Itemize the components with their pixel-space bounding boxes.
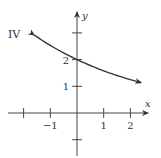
graph-label: IV (8, 28, 21, 41)
exponential-curve (34, 35, 141, 83)
y-tick-label: 1 (63, 81, 69, 92)
x-tick-label: 2 (127, 120, 133, 131)
y-axis-label: y (81, 10, 88, 21)
exponential-graph: −112 12 IV x y (0, 0, 161, 158)
x-ticks: −112 (24, 108, 134, 131)
x-axis-label: x (145, 98, 151, 109)
x-tick-label: −1 (43, 120, 58, 131)
y-ticks: 12 (63, 33, 82, 140)
x-tick-label: 1 (101, 120, 107, 131)
y-tick-label: 2 (63, 55, 69, 66)
